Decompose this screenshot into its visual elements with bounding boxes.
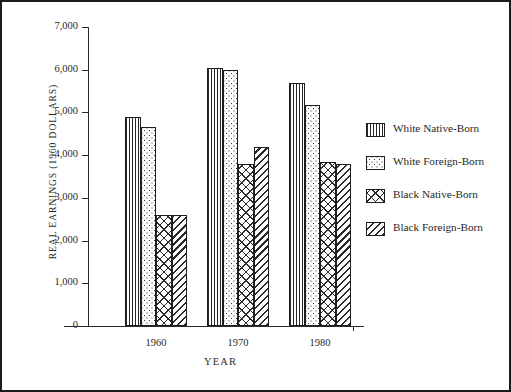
x-tick-label: 1970 bbox=[208, 337, 268, 348]
x-axis-end-tick bbox=[353, 326, 354, 331]
figure-frame: REAL EARNINGS (1960 DOLLARS) 01,0002,000… bbox=[0, 0, 511, 392]
figure-canvas: REAL EARNINGS (1960 DOLLARS) 01,0002,000… bbox=[4, 4, 507, 388]
x-tick-label: 1960 bbox=[126, 337, 186, 348]
y-tick-label: 3,000 bbox=[54, 191, 78, 202]
bar-1960-white-foreign-born bbox=[141, 127, 157, 326]
y-tick-label: 2,000 bbox=[54, 234, 78, 245]
legend-swatch-icon bbox=[366, 222, 385, 236]
legend-label: Black Foreign-Born bbox=[393, 221, 483, 233]
bar-1970-black-foreign-born bbox=[254, 147, 270, 326]
bar-series-container bbox=[88, 27, 353, 326]
legend-item-white-foreign-born: White Foreign-Born bbox=[366, 155, 506, 179]
legend-label: White Foreign-Born bbox=[393, 155, 484, 167]
legend-swatch-icon bbox=[366, 156, 385, 170]
y-tick-label: 0 bbox=[73, 319, 78, 330]
x-axis-title: YEAR bbox=[88, 356, 353, 367]
bar-1970-white-foreign-born bbox=[223, 70, 239, 326]
bar-1980-white-native-born bbox=[289, 83, 305, 326]
bar-1960-black-foreign-born bbox=[172, 215, 188, 326]
y-tick-label: 5,000 bbox=[54, 105, 78, 116]
y-tick-label: 1,000 bbox=[54, 276, 78, 287]
plot-area bbox=[88, 27, 353, 326]
legend-swatch-icon bbox=[366, 189, 385, 203]
chart-legend: White Native-BornWhite Foreign-BornBlack… bbox=[366, 122, 506, 254]
bar-1980-black-foreign-born bbox=[336, 164, 352, 326]
y-axis-ticks: 01,0002,0003,0004,0005,0006,0007,000 bbox=[4, 27, 88, 327]
legend-item-black-foreign-born: Black Foreign-Born bbox=[366, 221, 506, 245]
y-tick-label: 7,000 bbox=[54, 20, 78, 31]
bar-1960-black-native-born bbox=[156, 215, 172, 326]
bar-1970-black-native-born bbox=[238, 164, 254, 326]
bar-1980-black-native-born bbox=[320, 162, 336, 326]
legend-label: White Native-Born bbox=[393, 122, 479, 134]
x-axis-ticks: 196019701980 bbox=[88, 326, 353, 352]
x-tick-label: 1980 bbox=[290, 337, 350, 348]
bar-1960-white-native-born bbox=[125, 117, 141, 326]
y-tick-label: 4,000 bbox=[54, 148, 78, 159]
legend-label: Black Native-Born bbox=[393, 188, 478, 200]
y-tick-label: 6,000 bbox=[54, 63, 78, 74]
legend-item-white-native-born: White Native-Born bbox=[366, 122, 506, 146]
legend-item-black-native-born: Black Native-Born bbox=[366, 188, 506, 212]
bar-1970-white-native-born bbox=[207, 68, 223, 326]
legend-swatch-icon bbox=[366, 123, 385, 137]
bar-1980-white-foreign-born bbox=[305, 105, 321, 326]
